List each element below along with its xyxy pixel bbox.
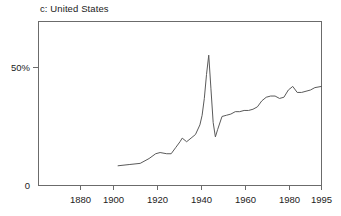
x-tick-label-1995: 1995 xyxy=(311,194,332,205)
chart-page: c: United States 50% 0 1880 1900 1920 19… xyxy=(0,0,341,216)
y-tick-label-50: 50% xyxy=(11,62,31,73)
x-tick-label-1880: 1880 xyxy=(70,194,91,205)
x-axis-ticks xyxy=(81,185,322,190)
x-tick-label-1980: 1980 xyxy=(279,194,300,205)
y-tick-label-0: 0 xyxy=(25,180,30,191)
x-tick-label-1920: 1920 xyxy=(147,194,168,205)
x-tick-label-1900: 1900 xyxy=(103,194,124,205)
plot-frame xyxy=(39,22,322,186)
x-tick-label-1960: 1960 xyxy=(235,194,256,205)
x-tick-label-1940: 1940 xyxy=(191,194,212,205)
chart-plot-area: 50% 0 1880 1900 1920 1940 1960 1980 1995 xyxy=(0,0,341,216)
data-series-united-states xyxy=(118,55,321,166)
